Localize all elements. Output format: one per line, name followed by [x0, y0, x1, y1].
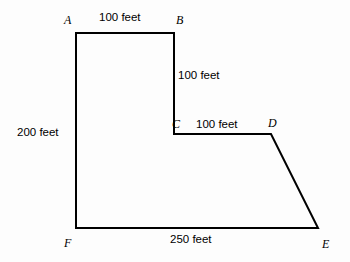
vertex-label-f: F [64, 237, 71, 249]
dimension-label-fa: 200 feet [17, 127, 59, 139]
geometry-figure: A B C D E F 100 feet 100 feet 100 feet 2… [0, 0, 350, 262]
dimension-label-ef: 250 feet [170, 234, 212, 246]
vertex-label-b: B [176, 14, 183, 26]
dimension-label-ab: 100 feet [99, 12, 141, 24]
vertex-label-e: E [322, 238, 329, 250]
land-plot-polygon [76, 33, 318, 228]
vertex-label-d: D [268, 117, 277, 129]
vertex-label-c: C [172, 118, 180, 130]
dimension-label-bc: 100 feet [178, 70, 220, 82]
vertex-label-a: A [64, 14, 71, 26]
dimension-label-cd: 100 feet [196, 119, 238, 131]
